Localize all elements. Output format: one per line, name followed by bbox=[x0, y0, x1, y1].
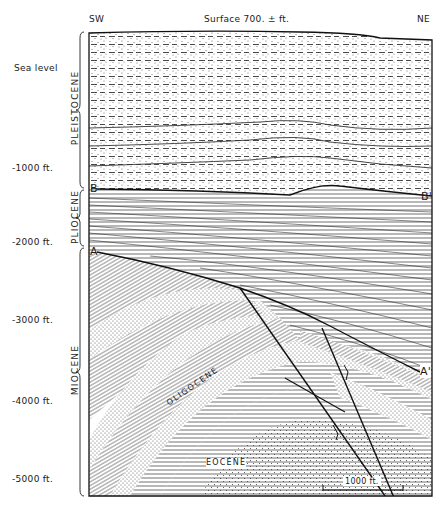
epoch-pliocene: PLIOCENE bbox=[70, 185, 80, 249]
depth-label-4000: -4000 ft. bbox=[12, 396, 53, 406]
marker-b-prime: B' bbox=[421, 190, 432, 203]
depth-label-1000: -1000 ft. bbox=[12, 163, 53, 173]
sw-label: SW bbox=[89, 14, 104, 24]
marker-a: A bbox=[90, 245, 98, 258]
cross-section-diagram bbox=[0, 0, 446, 506]
epoch-miocene: MIOCENE bbox=[70, 338, 80, 402]
surface-label: Surface 700. ± ft. bbox=[204, 14, 289, 24]
depth-label-sea-level: Sea level bbox=[14, 63, 58, 73]
depth-label-2000: -2000 ft. bbox=[12, 237, 53, 247]
epoch-pleistocene: PLEISTOCENE bbox=[70, 68, 80, 148]
marker-b: B bbox=[90, 182, 98, 195]
depth-label-3000: -3000 ft. bbox=[12, 315, 53, 325]
pleistocene-layer bbox=[88, 28, 434, 198]
depth-label-5000: -5000 ft. bbox=[12, 474, 53, 484]
strata-group bbox=[88, 28, 434, 500]
eocene-label: EOCENE bbox=[206, 458, 246, 467]
scale-bar-label: 1000 ft. bbox=[343, 477, 381, 486]
ne-label: NE bbox=[417, 14, 430, 24]
marker-a-prime: A' bbox=[420, 365, 431, 378]
